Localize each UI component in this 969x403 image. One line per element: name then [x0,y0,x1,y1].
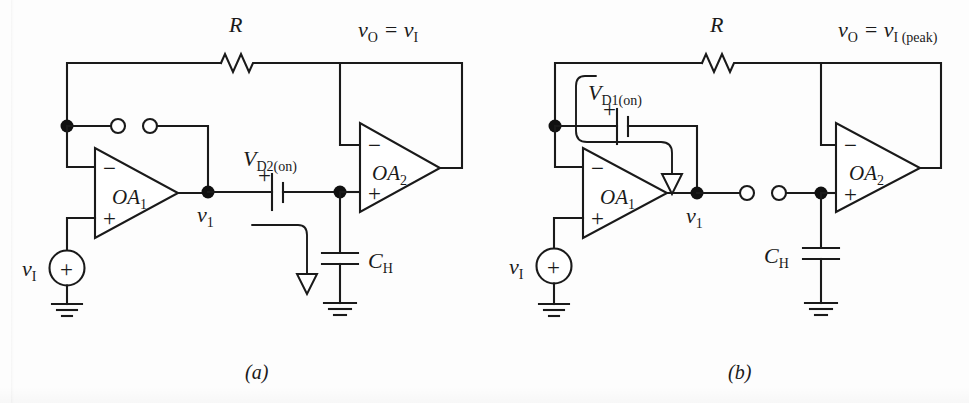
wire-oa2-feedback-b [821,63,836,145]
battery-plus-sign-a: + [258,163,271,188]
label-output-b: vO = vI (peak) [838,17,938,46]
switch-terminal-right-b[interactable] [772,186,786,200]
oa1-minus-sign-a: − [103,156,116,181]
resistor-a [221,54,340,72]
battery-plus-sign-b: + [603,97,616,122]
label-vi-a: vI [22,256,37,284]
oa2-minus-sign-b: − [844,133,857,158]
wire-oa1-inv-b [555,126,583,167]
panel-b: VD1(on) + − + OA1 v1 − + OA2 CH [509,17,941,384]
oa2-minus-sign-a: − [368,133,381,158]
ground-cap-a [324,303,356,315]
switch-terminal-right-a[interactable] [143,119,157,133]
label-output-a: vO = vI [358,17,419,45]
wire-oa2-feedback-a [340,63,360,145]
label-v1-b: v1 [686,203,703,231]
current-arrow-path-a [252,225,307,276]
oa1-plus-sign-a: + [103,206,116,231]
oa1-plus-sign-b: + [591,206,604,231]
current-arrowhead-a [297,274,317,294]
circuit-figure: − + OA1 v1 VD2(on) + − + OA2 CH [0,0,969,403]
panel-a: − + OA1 v1 VD2(on) + − + OA2 CH [22,17,462,384]
circuit-svg: − + OA1 v1 VD2(on) + − + OA2 CH [0,0,969,403]
label-r-a: R [228,12,243,37]
wire-switch-right-a [157,126,208,192]
oa1-minus-sign-b: − [591,156,604,181]
label-ch-b: CH [764,243,789,271]
ground-source-b [539,304,569,316]
label-vi-b: vI [509,254,524,282]
caption-b: (b) [728,361,752,384]
oa2-plus-sign-b: + [844,182,857,207]
source-plus-sign-b: + [547,255,560,280]
label-ch-a: CH [368,248,393,276]
label-v1-a: v1 [197,202,214,230]
resistor-b [702,54,821,72]
label-r-b: R [709,12,724,37]
switch-terminal-left-a[interactable] [111,119,125,133]
source-plus-sign-a: + [60,257,73,282]
ground-source-a [52,304,82,316]
ground-cap-b [805,303,837,315]
wire-oa1-nonminv-b [554,218,583,249]
wire-oa1-nonminv-a [67,218,95,251]
wire-oa1-inv-a [67,126,95,167]
switch-terminal-left-b[interactable] [740,186,754,200]
wire-top-left-a [67,63,221,126]
caption-a: (a) [245,361,269,384]
